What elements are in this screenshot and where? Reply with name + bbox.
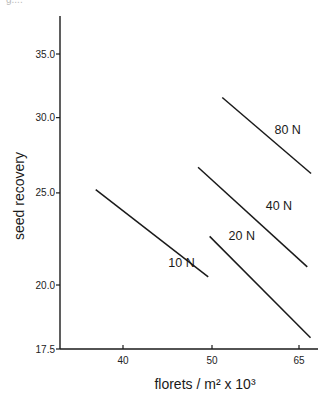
series-line-20n (210, 236, 311, 337)
x-tick-label: 50 (206, 355, 218, 366)
y-axis-title: seed recovery (11, 152, 27, 240)
y-tick-label: 35.0 (36, 49, 56, 60)
x-axis-title: florets / m² x 10³ (154, 376, 255, 392)
series-line-40n (198, 167, 307, 267)
y-tick-label: 20.0 (36, 280, 56, 291)
series-label-20n: 20 N (229, 229, 255, 243)
x-tick-label: 65 (293, 355, 305, 366)
y-tick-label: 25.0 (36, 187, 56, 198)
axes (60, 16, 318, 349)
series-label-40n: 40 N (266, 199, 292, 213)
x-ticks: 405065 (117, 345, 305, 366)
series-lines: 10 N20 N40 N80 N (96, 97, 311, 337)
y-tick-label: 17.5 (36, 344, 56, 355)
series-label-10n: 10 N (168, 256, 194, 270)
series-label-80n: 80 N (274, 123, 300, 137)
y-tick-label: 30.0 (36, 112, 56, 123)
x-tick-label: 40 (117, 355, 129, 366)
y-ticks: 17.520.025.030.035.0 (36, 49, 60, 355)
chart: 17.520.025.030.035.0 405065 10 N20 N40 N… (0, 0, 335, 407)
